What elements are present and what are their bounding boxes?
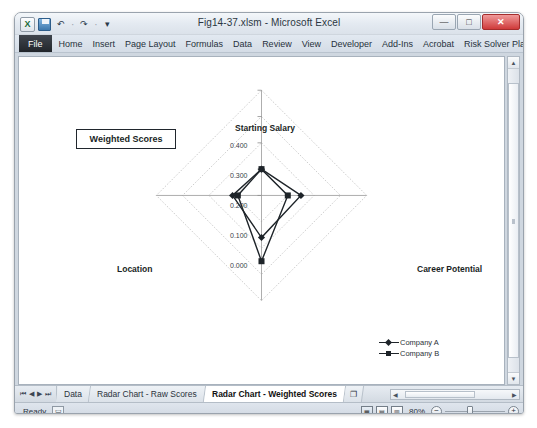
ribbon-tab-bar[interactable]: File Home Insert Page Layout Formulas Da… — [15, 35, 523, 53]
horizontal-scrollbar-area[interactable]: ◀ ▶ — [390, 386, 523, 402]
tick-label-0300: 0.300 — [230, 172, 248, 179]
ribbon-tab-review[interactable]: Review — [257, 35, 297, 52]
axis-label-career-potential: Career Potential — [417, 264, 482, 274]
page-layout-view-button[interactable]: ▤ — [376, 406, 388, 415]
ribbon-tab-developer[interactable]: Developer — [326, 35, 377, 52]
ribbon-tab-formulas[interactable]: Formulas — [181, 35, 229, 52]
zoom-level-label[interactable]: 80% — [406, 407, 428, 415]
ribbon-tab-risk-solver-platform[interactable]: Risk Solver Platform — [459, 35, 524, 52]
ribbon-tab-acrobat[interactable]: Acrobat — [418, 35, 459, 52]
radar-plot-svg — [19, 57, 504, 384]
record-macro-icon[interactable]: ▭ — [52, 406, 64, 415]
page-break-preview-button[interactable]: ▥ — [391, 406, 403, 415]
sheet-tab-bar[interactable]: ⏮ ◀ ▶ ⏭ Data Radar Chart - Raw Scores Ra… — [15, 385, 523, 402]
legend-item-company-a[interactable]: Company A — [379, 337, 439, 348]
prev-sheet-icon[interactable]: ◀ — [29, 390, 34, 398]
sheet-tab-data[interactable]: Data — [56, 386, 91, 402]
worksheet-canvas[interactable]: Weighted Scores — [18, 56, 505, 385]
vertical-scroll-thumb[interactable] — [508, 83, 519, 358]
sheet-tab-radar-chart-weighted-scores[interactable]: Radar Chart - Weighted Scores — [204, 386, 346, 402]
vertical-scrollbar[interactable]: ▲ ▼ — [507, 56, 520, 385]
tick-label-0400: 0.400 — [230, 142, 248, 149]
status-bar-right[interactable]: ▦ ▤ ▥ 80% − + — [361, 406, 519, 415]
insert-worksheet-icon[interactable]: ❐ — [344, 386, 364, 402]
chart-legend[interactable]: Company A Company B — [379, 337, 439, 359]
zoom-in-button[interactable]: + — [508, 406, 519, 415]
horizontal-scrollbar[interactable]: ◀ ▶ — [390, 389, 520, 400]
status-bar: Ready ▭ ▦ ▤ ▥ 80% − + — [15, 402, 523, 414]
legend-label-company-a: Company A — [400, 338, 439, 347]
ribbon-tab-data[interactable]: Data — [228, 35, 257, 52]
legend-diamond-marker-icon — [379, 338, 399, 348]
normal-view-button[interactable]: ▦ — [361, 406, 373, 415]
first-sheet-icon[interactable]: ⏮ — [20, 390, 26, 398]
radar-tick-marks — [257, 90, 261, 195]
ribbon-tab-add-ins[interactable]: Add-Ins — [377, 35, 418, 52]
tick-label-0000: 0.000 — [230, 262, 248, 269]
legend-label-company-b: Company B — [400, 349, 439, 358]
tick-label-0200: 0.200 — [230, 202, 248, 209]
window-controls[interactable]: — □ ✕ — [432, 14, 520, 30]
axis-label-starting-salary: Starting Salary — [235, 123, 295, 133]
close-button[interactable]: ✕ — [482, 14, 520, 30]
legend-item-company-b[interactable]: Company B — [379, 348, 439, 359]
ribbon-tab-home[interactable]: Home — [54, 35, 88, 52]
excel-window: X ↶ · ↷ · ▾ Fig14-37.xlsm - Microsoft Ex… — [14, 12, 524, 414]
axis-label-location: Location — [117, 264, 152, 274]
tick-label-0100: 0.100 — [230, 232, 248, 239]
ribbon-tab-page-layout[interactable]: Page Layout — [120, 35, 181, 52]
zoom-slider-handle[interactable] — [467, 406, 473, 415]
legend-square-marker-icon — [379, 349, 399, 359]
ribbon-tab-insert[interactable]: Insert — [88, 35, 121, 52]
scroll-up-arrow-icon[interactable]: ▲ — [508, 57, 519, 69]
status-text: Ready — [19, 407, 52, 415]
zoom-out-button[interactable]: − — [431, 406, 442, 415]
maximize-button[interactable]: □ — [457, 14, 481, 30]
horizontal-scroll-thumb[interactable] — [405, 391, 475, 398]
sheet-tab-radar-chart-raw-scores[interactable]: Radar Chart - Raw Scores — [89, 386, 206, 402]
scroll-down-arrow-icon[interactable]: ▼ — [508, 372, 519, 384]
sheet-nav-buttons[interactable]: ⏮ ◀ ▶ ⏭ — [18, 386, 57, 402]
scroll-left-arrow-icon[interactable]: ◀ — [391, 391, 400, 398]
zoom-slider[interactable] — [445, 406, 505, 415]
minimize-button[interactable]: — — [432, 14, 456, 30]
title-bar: X ↶ · ↷ · ▾ Fig14-37.xlsm - Microsoft Ex… — [15, 13, 523, 35]
next-sheet-icon[interactable]: ▶ — [37, 390, 42, 398]
ribbon-tab-file[interactable]: File — [19, 35, 52, 52]
scroll-right-arrow-icon[interactable]: ▶ — [510, 391, 519, 398]
radar-chart[interactable]: Weighted Scores — [19, 57, 504, 384]
workbook-area: Weighted Scores — [15, 53, 523, 385]
last-sheet-icon[interactable]: ⏭ — [45, 390, 51, 398]
ribbon-tab-view[interactable]: View — [297, 35, 326, 52]
desktop-background: X ↶ · ↷ · ▾ Fig14-37.xlsm - Microsoft Ex… — [0, 0, 537, 428]
